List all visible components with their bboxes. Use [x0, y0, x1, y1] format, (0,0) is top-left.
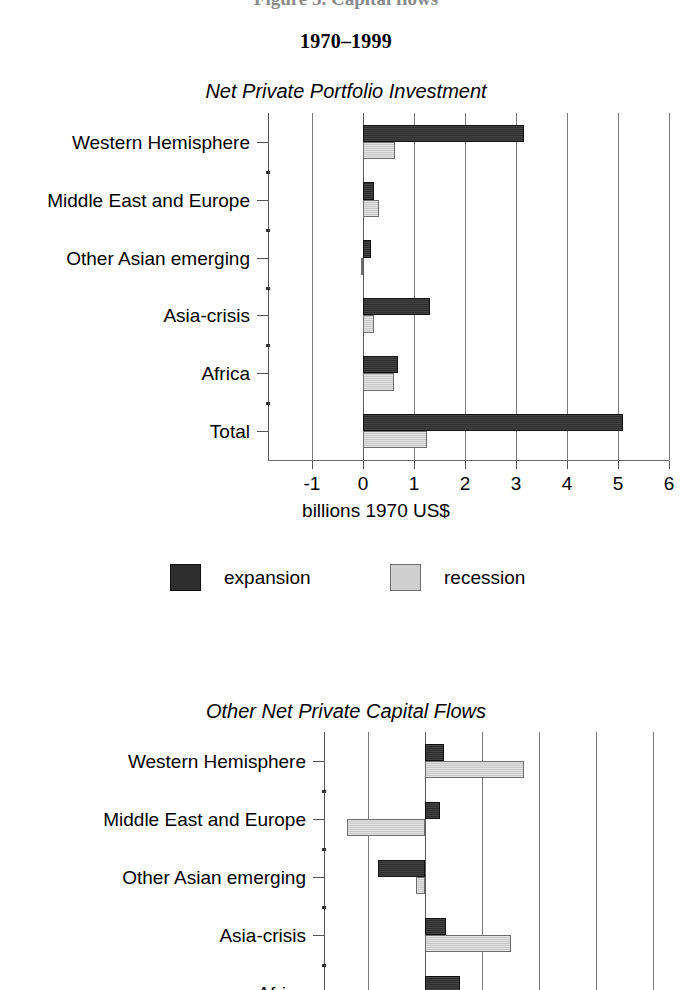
bar-expansion [425, 802, 440, 819]
gridline--1 [312, 113, 313, 460]
panel-1-title: Net Private Portfolio Investment [0, 80, 692, 103]
bar-recession [363, 373, 394, 390]
gridline-5 [618, 113, 619, 460]
y-tick-minor [322, 964, 326, 967]
bar-expansion [425, 744, 444, 761]
cut-off-caption: Figure 3. Capital flows [0, 0, 692, 9]
bar-expansion [363, 125, 524, 142]
category-label: Asia-crisis [0, 926, 306, 945]
figure-page: Figure 3. Capital flows 1970–1999 Net Pr… [0, 0, 692, 990]
category-label: Middle East and Europe [0, 191, 250, 210]
bar-recession [363, 142, 395, 159]
gridline-2 [465, 113, 466, 460]
y-tick-minor [266, 344, 270, 347]
bar-recession [425, 935, 511, 952]
bar-expansion [363, 182, 374, 199]
category-label: Other Asian emerging [0, 249, 250, 268]
gridline--1 [368, 732, 369, 990]
legend-label-recession: recession [444, 564, 525, 591]
x-tick [465, 461, 466, 469]
category-label: Asia-crisis [0, 306, 250, 325]
period-title: 1970–1999 [0, 30, 692, 53]
x-tick [414, 461, 415, 469]
legend-swatch-recession [390, 564, 421, 591]
category-label: Africa [0, 364, 250, 383]
y-tick-major [257, 373, 268, 374]
x-axis-baseline [268, 460, 669, 461]
bar-expansion [363, 414, 623, 431]
x-tick [516, 461, 517, 469]
y-tick-major [257, 315, 268, 316]
category-label: Western Hemisphere [0, 752, 306, 771]
y-tick-minor [266, 229, 270, 232]
x-tick-label: 4 [547, 473, 587, 495]
x-tick [363, 461, 364, 469]
bar-expansion [425, 918, 446, 935]
y-tick-major [257, 142, 268, 143]
y-tick-major [313, 761, 324, 762]
gridline-3 [516, 113, 517, 460]
gridline-2 [539, 732, 540, 990]
gridline-6 [669, 113, 670, 460]
bar-recession [347, 819, 425, 836]
category-label: Middle East and Europe [0, 810, 306, 829]
bar-expansion [363, 298, 430, 315]
y-tick-major [257, 431, 268, 432]
legend-label-expansion: expansion [224, 564, 311, 591]
x-tick-label: 3 [496, 473, 536, 495]
panel-2-title: Other Net Private Capital Flows [0, 700, 692, 723]
x-tick-label: -1 [292, 473, 332, 495]
category-label: Other Asian emerging [0, 868, 306, 887]
bar-recession [361, 258, 363, 275]
bar-expansion [363, 240, 371, 257]
y-tick-minor [322, 848, 326, 851]
y-tick-major [313, 877, 324, 878]
bar-expansion [363, 356, 398, 373]
x-tick-label: 2 [445, 473, 485, 495]
y-tick-minor [322, 790, 326, 793]
x-tick [312, 461, 313, 469]
chart-1-plot-area [312, 113, 669, 460]
x-tick-label: 1 [394, 473, 434, 495]
y-tick-major [257, 200, 268, 201]
y-tick-minor [266, 171, 270, 174]
gridline-4 [567, 113, 568, 460]
y-tick-major [257, 258, 268, 259]
x-tick-label: 6 [649, 473, 689, 495]
bar-expansion [425, 976, 460, 990]
bar-expansion [378, 860, 425, 877]
x-axis-title: billions 1970 US$ [0, 500, 692, 522]
y-axis-spine [324, 732, 325, 990]
bar-recession [363, 200, 379, 217]
bar-recession [416, 877, 425, 894]
gridline-3 [596, 732, 597, 990]
category-label: Western Hemisphere [0, 133, 250, 152]
y-tick-minor [322, 906, 326, 909]
legend-swatch-expansion [170, 564, 201, 591]
legend: expansionrecession [0, 560, 692, 600]
x-tick-label: 5 [598, 473, 638, 495]
category-label: Africa [0, 984, 306, 990]
bar-recession [363, 315, 374, 332]
x-tick [567, 461, 568, 469]
gridline-4 [653, 732, 654, 990]
category-label: Total [0, 422, 250, 441]
y-tick-minor [266, 287, 270, 290]
bar-recession [425, 761, 524, 778]
x-tick-label: 0 [343, 473, 383, 495]
y-tick-major [313, 819, 324, 820]
gridline-1 [414, 113, 415, 460]
gridline-0 [363, 113, 364, 460]
bar-recession [363, 431, 427, 448]
x-tick [618, 461, 619, 469]
x-tick [669, 461, 670, 469]
y-tick-minor [266, 402, 270, 405]
y-tick-major [313, 935, 324, 936]
chart-2-plot-area [368, 732, 692, 990]
